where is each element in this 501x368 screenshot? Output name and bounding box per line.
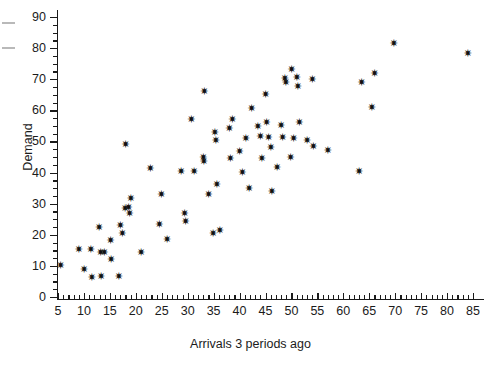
data-point-marker: ✷ <box>281 78 290 87</box>
data-point-marker: ✷ <box>181 217 190 226</box>
data-point-marker: ✷ <box>157 190 166 199</box>
data-point-marker: ✷ <box>199 157 208 166</box>
data-point-marker: ✷ <box>146 164 155 173</box>
data-point-marker: ✷ <box>238 168 247 177</box>
data-point-marker: ✷ <box>126 194 135 203</box>
y-axis-major-tick <box>50 17 58 18</box>
y-axis-major-tick <box>50 79 58 80</box>
y-axis-tick-label: 0 <box>6 291 46 304</box>
data-point-marker: ✷ <box>137 248 146 257</box>
y-axis-tick-label: 80 <box>6 42 46 55</box>
data-point-marker: ✷ <box>309 142 318 151</box>
y-axis-major-tick <box>50 173 58 174</box>
y-axis-tick-label: 20 <box>6 229 46 242</box>
data-point-marker: ✷ <box>228 115 237 124</box>
data-point-marker: ✷ <box>56 261 65 270</box>
data-point-marker: ✷ <box>277 121 286 130</box>
data-point-marker: ✷ <box>200 87 209 96</box>
y-axis-major-tick <box>50 141 58 142</box>
data-point-marker: ✷ <box>389 39 398 48</box>
data-point-marker: ✷ <box>235 147 244 156</box>
data-point-marker: ✷ <box>293 82 302 91</box>
data-point-marker: ✷ <box>97 272 106 281</box>
y-axis-tick-label: 90 <box>6 11 46 24</box>
data-point-marker: ✷ <box>189 167 198 176</box>
data-point-marker: ✷ <box>370 69 379 78</box>
data-point-marker: ✷ <box>125 209 134 218</box>
data-point-marker: ✷ <box>187 115 196 124</box>
data-point-marker: ✷ <box>114 272 123 281</box>
data-point-marker: ✷ <box>286 153 295 162</box>
data-point-marker: ✷ <box>94 223 103 232</box>
data-point-marker: ✷ <box>308 75 317 84</box>
data-point-marker: ✷ <box>211 136 220 145</box>
y-axis-tick-label: 70 <box>6 73 46 86</box>
data-point-marker: ✷ <box>86 245 95 254</box>
data-point-marker: ✷ <box>357 78 366 87</box>
data-point-marker: ✷ <box>106 236 115 245</box>
data-point-marker: ✷ <box>87 273 96 282</box>
y-axis-major-tick <box>50 48 58 49</box>
data-point-marker: ✷ <box>272 163 281 172</box>
y-axis-major-tick <box>50 110 58 111</box>
data-point-marker: ✷ <box>241 134 250 143</box>
data-point-marker: ✷ <box>215 226 224 235</box>
x-axis-major-tick <box>473 293 474 300</box>
x-axis-title: Arrivals 3 periods ago <box>0 337 501 351</box>
x-axis-tick-label: 85 <box>458 305 488 318</box>
y-axis-major-tick <box>50 235 58 236</box>
data-point-marker: ✷ <box>261 90 270 99</box>
data-point-marker: ✷ <box>204 190 213 199</box>
data-point-marker: ✷ <box>118 229 127 238</box>
data-point-marker: ✷ <box>463 49 472 58</box>
y-axis-tick-label: 30 <box>6 198 46 211</box>
y-axis-major-tick <box>50 204 58 205</box>
data-point-marker: ✷ <box>262 118 271 127</box>
data-point-marker: ✷ <box>106 255 115 264</box>
data-point-marker: ✷ <box>74 245 83 254</box>
data-point-marker: ✷ <box>212 180 221 189</box>
y-axis-tick-label: 10 <box>6 260 46 273</box>
data-point-marker: ✷ <box>247 104 256 113</box>
data-point-marker: ✷ <box>289 134 298 143</box>
data-point-marker: ✷ <box>278 133 287 142</box>
scatter-plot-figure: 0102030405060708090 51015202530354045505… <box>0 0 501 368</box>
data-point-marker: ✷ <box>226 154 235 163</box>
data-point-marker: ✷ <box>176 167 185 176</box>
data-point-marker: ✷ <box>162 235 171 244</box>
data-point-marker: ✷ <box>323 146 332 155</box>
data-point-marker: ✷ <box>295 118 304 127</box>
y-axis-major-tick <box>50 297 58 298</box>
data-point-marker: ✷ <box>257 154 266 163</box>
data-point-marker: ✷ <box>367 103 376 112</box>
data-point-marker: ✷ <box>121 140 130 149</box>
data-point-marker: ✷ <box>266 143 275 152</box>
data-point-marker: ✷ <box>267 187 276 196</box>
data-point-marker: ✷ <box>354 167 363 176</box>
data-point-marker: ✷ <box>155 220 164 229</box>
y-axis-title: Demand <box>21 107 35 187</box>
data-point-marker: ✷ <box>244 184 253 193</box>
